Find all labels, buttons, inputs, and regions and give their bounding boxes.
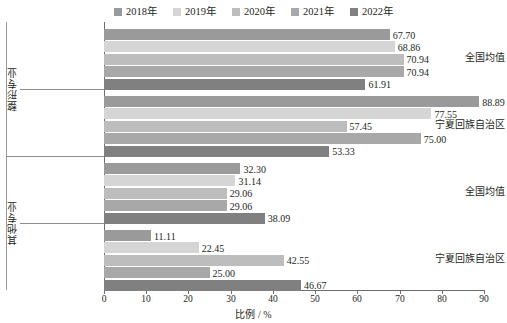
y-category-label-national-avg-2: 全国均值 xyxy=(465,183,505,198)
bar-national-avg-other-2022年 xyxy=(104,213,265,224)
bar-ningxia-other-2022年 xyxy=(104,280,301,291)
legend-label-2022: 2022年 xyxy=(362,7,393,18)
bar-value-national-avg-plastic-2021年: 70.94 xyxy=(407,66,430,77)
bar-national-avg-other-2021年 xyxy=(104,200,227,211)
bar-value-ningxia-other-2020年: 42.55 xyxy=(287,255,310,266)
legend-item-2021[interactable]: 2021年 xyxy=(291,7,334,18)
y-category-divider-1 xyxy=(20,89,104,90)
bar-national-avg-plastic-2018年 xyxy=(104,29,390,40)
bar-value-ningxia-plastic-2020年: 57.45 xyxy=(350,121,373,132)
bar-chart: 2018年 2019年 2020年 2021年 2022年 整形专业 其他专业 … xyxy=(0,0,507,323)
bar-ningxia-other-2020年 xyxy=(104,255,284,266)
bar-value-national-avg-plastic-2020年: 70.94 xyxy=(407,54,430,65)
legend-label-2021: 2021年 xyxy=(303,7,334,18)
x-axis-title: 比例 / % xyxy=(0,306,507,321)
bar-value-national-avg-other-2022年: 38.09 xyxy=(268,213,291,224)
bar-ningxia-plastic-2022年 xyxy=(104,146,329,157)
legend-swatch-2022 xyxy=(350,8,358,16)
legend-label-2020: 2020年 xyxy=(244,7,275,18)
legend-swatch-2019 xyxy=(173,8,181,16)
x-tick-label-30: 30 xyxy=(226,294,236,304)
x-tick-label-10: 10 xyxy=(141,294,151,304)
y-group-label-plastic-surgery: 整形专业 xyxy=(6,22,20,156)
bar-value-national-avg-plastic-2018年: 67.70 xyxy=(393,29,416,40)
bar-value-ningxia-other-2021年: 25.00 xyxy=(213,267,236,278)
bar-ningxia-plastic-2020年 xyxy=(104,121,347,132)
y-category-divider-3 xyxy=(20,223,104,224)
bar-national-avg-plastic-2020年 xyxy=(104,54,404,65)
bar-value-ningxia-plastic-2021年: 75.00 xyxy=(424,133,447,144)
x-tick-label-90: 90 xyxy=(479,294,489,304)
bar-ningxia-plastic-2018年 xyxy=(104,96,479,107)
bar-ningxia-plastic-2019年 xyxy=(104,108,431,119)
legend-swatch-2020 xyxy=(232,8,240,16)
legend-label-2019: 2019年 xyxy=(185,7,216,18)
legend-swatch-2021 xyxy=(291,8,299,16)
bar-national-avg-plastic-2022年 xyxy=(104,79,365,90)
bar-value-ningxia-other-2018年: 11.11 xyxy=(154,230,176,241)
bar-national-avg-other-2020年 xyxy=(104,188,227,199)
bar-value-ningxia-other-2019年: 22.45 xyxy=(202,242,225,253)
chart-legend: 2018年 2019年 2020年 2021年 2022年 xyxy=(0,4,507,20)
bar-ningxia-plastic-2021年 xyxy=(104,133,421,144)
bar-ningxia-other-2021年 xyxy=(104,267,210,278)
y-category-label-ningxia-2: 宁夏回族自治区 xyxy=(435,250,505,265)
bar-national-avg-other-2019年 xyxy=(104,175,235,186)
bar-national-avg-plastic-2021年 xyxy=(104,66,404,77)
bar-national-avg-other-2018年 xyxy=(104,163,240,174)
y-category-label-national-avg-1: 全国均值 xyxy=(465,49,505,64)
legend-label-2018: 2018年 xyxy=(126,7,157,18)
x-tick-label-50: 50 xyxy=(310,294,320,304)
x-tick-label-80: 80 xyxy=(437,294,447,304)
x-tick-label-60: 60 xyxy=(352,294,362,304)
x-tick-label-40: 40 xyxy=(268,294,278,304)
x-tick-label-70: 70 xyxy=(395,294,405,304)
y-group-label-other-specialty: 其他专业 xyxy=(6,156,20,290)
bar-value-national-avg-other-2021年: 29.06 xyxy=(230,200,253,211)
bar-national-avg-plastic-2019年 xyxy=(104,41,395,52)
bar-value-national-avg-plastic-2022年: 61.91 xyxy=(368,79,391,90)
legend-item-2020[interactable]: 2020年 xyxy=(232,7,275,18)
legend-item-2018[interactable]: 2018年 xyxy=(114,7,157,18)
bar-value-national-avg-other-2020年: 29.06 xyxy=(230,188,253,199)
bar-value-ningxia-other-2022年: 46.67 xyxy=(304,280,327,291)
bar-value-ningxia-plastic-2019年: 77.55 xyxy=(434,108,457,119)
y-category-divider-2 xyxy=(6,156,104,157)
legend-swatch-2018 xyxy=(114,8,122,16)
legend-item-2019[interactable]: 2019年 xyxy=(173,7,216,18)
x-tick-label-0: 0 xyxy=(102,294,107,304)
bar-value-national-avg-other-2018年: 32.30 xyxy=(243,163,266,174)
bar-value-ningxia-plastic-2022年: 53.33 xyxy=(332,146,355,157)
x-tick-label-20: 20 xyxy=(183,294,193,304)
bar-ningxia-other-2018年 xyxy=(104,230,151,241)
bar-value-national-avg-plastic-2019年: 68.86 xyxy=(398,41,421,52)
bar-value-national-avg-other-2019年: 31.14 xyxy=(238,175,261,186)
legend-item-2022[interactable]: 2022年 xyxy=(350,7,393,18)
bar-ningxia-other-2019年 xyxy=(104,242,199,253)
bar-value-ningxia-plastic-2018年: 88.89 xyxy=(482,96,505,107)
